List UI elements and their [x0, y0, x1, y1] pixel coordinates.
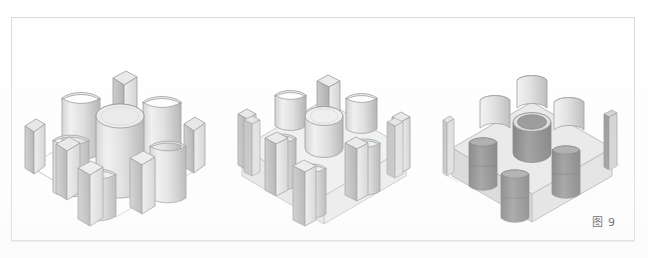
panel-3-drawing	[428, 18, 636, 242]
solid-corner-box-front-left	[265, 132, 288, 196]
solid-corner-box-front-right	[345, 137, 368, 201]
solid-corner-box-front-left	[56, 137, 80, 200]
solid-half-cylinder-back-right	[346, 94, 377, 134]
solid-corner-box-front-center	[293, 160, 316, 226]
solid-side-box-left	[244, 116, 260, 176]
figure-caption: 图 9	[592, 216, 617, 229]
panel-tools-with-cube	[220, 18, 428, 242]
solid-corner-box-front-center	[78, 161, 103, 226]
solid-corner-box-back-left	[25, 119, 45, 174]
feature-side-blade-left	[443, 116, 454, 176]
solid-side-box-right	[387, 118, 403, 178]
feature-corner-notch-front-center	[501, 170, 529, 222]
figure-page: 图 9	[0, 0, 648, 258]
solid-half-cylinder-back-left	[275, 91, 306, 131]
panel-boolean-result	[428, 18, 636, 242]
figure-frame: 图 9	[11, 17, 635, 241]
feature-edge-slot-back-center	[517, 76, 547, 109]
feature-center-through-hole	[513, 113, 551, 163]
figure-panels	[12, 18, 636, 242]
feature-edge-slot-back-right	[554, 97, 584, 130]
solid-corner-box-front-right	[130, 151, 155, 214]
feature-edge-slot-back-left	[480, 96, 510, 129]
solid-center-cylinder	[305, 107, 343, 158]
panel-tool-solids-array	[12, 18, 220, 242]
feature-corner-notch-front-right	[552, 146, 580, 198]
panel-1-drawing	[12, 18, 220, 242]
feature-corner-notch-front-left	[469, 138, 497, 190]
feature-side-blade-right	[604, 110, 617, 170]
solid-corner-box-back-right	[184, 117, 205, 173]
panel-2-drawing	[220, 18, 428, 242]
